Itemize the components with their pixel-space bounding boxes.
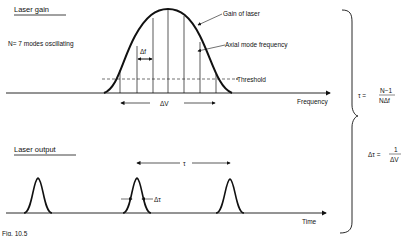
delta-f-label: Δf xyxy=(140,48,146,55)
gain-of-laser-label: Gain of laser xyxy=(223,10,261,17)
tau-eq-lhs: τ = xyxy=(358,92,366,99)
gain-panel-title: Laser gain xyxy=(14,5,49,14)
time-axis-label: Time xyxy=(302,218,317,225)
pulses xyxy=(24,178,244,213)
tau-label: τ xyxy=(183,160,186,167)
delta-tau-label: Δτ xyxy=(154,196,161,203)
tau-eq-num: N−1 xyxy=(380,87,392,94)
frequency-axis-label: Frequency xyxy=(297,98,328,106)
axial-mode-lines xyxy=(120,9,216,93)
threshold-label: Threshold xyxy=(237,76,266,83)
axial-mode-label: Axial mode frequency xyxy=(225,41,288,49)
tau-eq-den: NΔf xyxy=(379,97,390,104)
brace xyxy=(340,10,358,233)
output-panel-title: Laser output xyxy=(14,145,57,154)
dtau-eq-num: 1 xyxy=(394,146,398,153)
dtau-eq-lhs: Δτ = xyxy=(368,151,381,158)
modes-note: N= 7 modes oscillating xyxy=(8,40,74,48)
mode-locking-diagram: Laser gain N= 7 modes oscillating Freque… xyxy=(0,0,415,236)
figure-caption: Fig. 10.5 xyxy=(2,230,28,236)
delta-nu-label: ΔV xyxy=(160,100,169,107)
dtau-eq-den: ΔV xyxy=(390,156,399,163)
